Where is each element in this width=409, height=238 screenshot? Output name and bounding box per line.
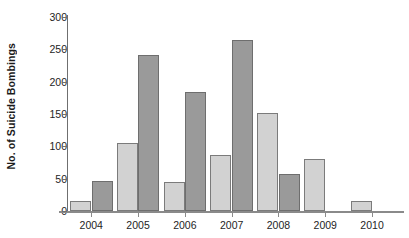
- bar-2006-series-2: [185, 92, 206, 211]
- y-tick-mark: [62, 49, 67, 50]
- x-tick-mark: [185, 212, 186, 217]
- y-tick-mark: [62, 114, 67, 115]
- x-tick-mark: [325, 212, 326, 217]
- bar-2005-series-2: [138, 55, 159, 211]
- x-tick-label-2007: 2007: [220, 219, 243, 231]
- x-tick-label-2004: 2004: [80, 219, 103, 231]
- bar-2007-series-2: [232, 40, 253, 211]
- y-tick-mark: [62, 179, 67, 180]
- x-tick-mark: [278, 212, 279, 217]
- x-tick-label-2010: 2010: [360, 219, 383, 231]
- y-tick-mark: [62, 82, 67, 83]
- y-tick-mark: [62, 146, 67, 147]
- bar-2004-series-2: [92, 181, 113, 211]
- bar-chart: No. of Suicide Bombings 0501001502002503…: [0, 0, 409, 238]
- x-tick-label-2005: 2005: [126, 219, 149, 231]
- x-tick-label-2008: 2008: [267, 219, 290, 231]
- x-tick-label-2009: 2009: [314, 219, 337, 231]
- x-tick-mark: [232, 212, 233, 217]
- bar-2009-series-1: [304, 159, 325, 211]
- x-tick-label-2006: 2006: [173, 219, 196, 231]
- y-tick-mark: [62, 17, 67, 18]
- bar-2008-series-1: [257, 113, 278, 211]
- bar-2006-series-1: [164, 182, 185, 211]
- y-tick-mark: [62, 211, 67, 212]
- bar-2007-series-1: [210, 155, 231, 211]
- bar-2010-series-1: [351, 201, 372, 211]
- bar-2008-series-2: [279, 174, 300, 212]
- x-tick-mark: [91, 212, 92, 217]
- x-tick-mark: [138, 212, 139, 217]
- bar-2005-series-1: [117, 143, 138, 211]
- x-tick-mark: [372, 212, 373, 217]
- bar-2004-series-1: [70, 201, 91, 211]
